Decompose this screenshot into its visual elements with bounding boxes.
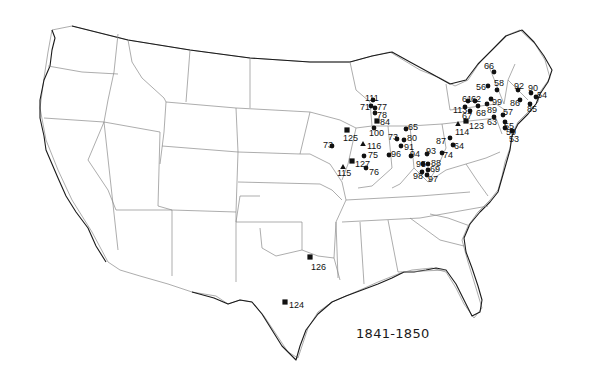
site-label: 84 xyxy=(380,117,390,127)
square-marker-icon xyxy=(307,254,312,259)
site-label: 69 xyxy=(430,164,440,174)
circle-marker-icon xyxy=(399,144,404,149)
site-label: 66 xyxy=(484,61,494,71)
square-marker-icon xyxy=(344,127,349,132)
site-label: 65 xyxy=(408,122,418,132)
site-label: 97 xyxy=(428,174,438,184)
site-label: 126 xyxy=(311,262,326,272)
site-label: 87 xyxy=(436,136,446,146)
site-85: 85 xyxy=(527,102,537,114)
site-label: 64 xyxy=(454,141,464,151)
circle-marker-icon xyxy=(486,84,491,89)
map-canvas: 6656589290549989868561621136867576355595… xyxy=(0,0,590,388)
site-label: 124 xyxy=(289,300,304,310)
site-label: 73 xyxy=(323,140,333,150)
site-label: 95 xyxy=(416,159,426,169)
circle-marker-icon xyxy=(362,154,367,159)
site-label: 73 xyxy=(388,132,398,142)
site-label: 71 xyxy=(360,102,370,112)
square-marker-icon xyxy=(282,299,287,304)
square-marker-icon xyxy=(374,118,379,123)
site-label: 53 xyxy=(509,134,519,144)
square-marker-icon xyxy=(463,118,468,123)
site-95: 95 xyxy=(416,159,426,169)
us-map: 6656589290549989868561621136867576355595… xyxy=(0,0,590,388)
site-94: 94 xyxy=(409,149,420,159)
site-53: 53 xyxy=(509,129,519,144)
site-73: 73 xyxy=(323,140,334,150)
square-marker-icon xyxy=(349,158,354,163)
circle-marker-icon xyxy=(495,88,500,93)
site-label: 98 xyxy=(413,171,423,181)
site-label: 123 xyxy=(469,121,484,131)
site-label: 115 xyxy=(337,168,351,178)
site-57: 57 xyxy=(501,107,513,117)
site-label: 57 xyxy=(503,107,513,117)
site-63: 63 xyxy=(487,115,497,127)
site-62: 62 xyxy=(471,94,481,104)
site-label: 76 xyxy=(369,167,379,177)
circle-marker-icon xyxy=(364,166,369,171)
site-label: 68 xyxy=(476,108,486,118)
site-label: 96 xyxy=(391,149,401,159)
site-label: 58 xyxy=(494,78,504,88)
site-93: 93 xyxy=(425,146,436,156)
site-label: 93 xyxy=(426,146,436,156)
site-100: 100 xyxy=(369,126,384,138)
site-label: 56 xyxy=(476,82,486,92)
site-label: 74 xyxy=(443,150,453,160)
site-label: 89 xyxy=(487,105,497,115)
period-label: 1841-1850 xyxy=(356,326,430,341)
site-label: 94 xyxy=(410,149,420,159)
site-label: 125 xyxy=(343,133,358,143)
site-label: 63 xyxy=(487,117,497,127)
circle-marker-icon xyxy=(448,136,453,141)
circle-marker-icon xyxy=(510,129,515,134)
site-label: 100 xyxy=(369,128,384,138)
site-label: 114 xyxy=(455,127,469,137)
site-98: 98 xyxy=(413,170,424,181)
site-92: 92 xyxy=(514,81,524,92)
site-label: 62 xyxy=(471,94,481,104)
site-label: 54 xyxy=(537,90,547,100)
site-label: 92 xyxy=(514,81,524,91)
site-73: 73 xyxy=(388,132,399,142)
site-label: 85 xyxy=(527,104,537,114)
